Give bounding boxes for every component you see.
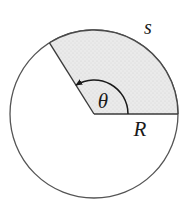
angle-label: θ [98, 89, 108, 113]
radius-label: R [133, 117, 147, 141]
geometry-figure: s R θ [0, 0, 189, 218]
arc-length-label: s [144, 16, 152, 38]
circle-sector-diagram: s R θ [0, 0, 189, 218]
